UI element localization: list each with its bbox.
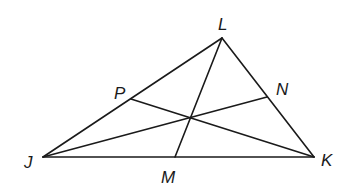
label-L: L (218, 15, 227, 34)
side-LJ (43, 38, 222, 157)
median-LM (175, 38, 222, 157)
label-N: N (276, 80, 289, 99)
label-J: J (23, 153, 33, 172)
label-P: P (114, 84, 126, 103)
side-KL (222, 38, 314, 157)
label-K: K (321, 151, 333, 170)
segments-group (43, 38, 314, 157)
labels-group: L J K M N P (23, 15, 333, 187)
label-M: M (161, 168, 176, 187)
median-KP (131, 99, 314, 157)
triangle-diagram: L J K M N P (0, 0, 354, 194)
